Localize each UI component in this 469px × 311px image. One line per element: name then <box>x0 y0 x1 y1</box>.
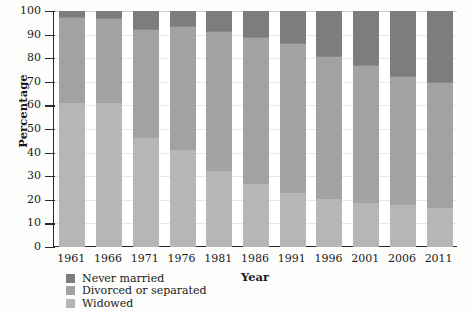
bar-1996[interactable] <box>316 11 342 246</box>
bar-segment-widowed <box>206 171 232 247</box>
y-axis-tick <box>45 82 55 83</box>
bar-segment-widowed <box>427 208 453 247</box>
bar-segment-widowed <box>133 138 159 247</box>
bar-segment-never-married <box>243 11 269 37</box>
bar-segment-divorced <box>427 82 453 208</box>
y-axis-label: 70 <box>9 76 41 87</box>
bar-segment-widowed <box>96 103 122 247</box>
bar-segment-divorced <box>353 65 379 203</box>
bar-segment-divorced <box>59 17 85 103</box>
bar-segment-widowed <box>280 193 306 247</box>
bar-segment-divorced <box>316 56 342 199</box>
bar-segment-widowed <box>390 205 416 247</box>
y-axis-label: 10 <box>9 217 41 228</box>
y-axis-tick <box>45 247 55 248</box>
bar-2001[interactable] <box>353 11 379 246</box>
bar-1961[interactable] <box>59 11 85 246</box>
legend-swatch-icon <box>66 299 75 308</box>
bar-segment-divorced <box>170 26 196 150</box>
bar-1971[interactable] <box>133 11 159 246</box>
y-axis-tick <box>45 129 55 130</box>
legend-label: Never married <box>82 272 164 285</box>
bar-segment-never-married <box>170 11 196 26</box>
y-axis-label: 90 <box>9 29 41 40</box>
y-axis-tick <box>45 58 55 59</box>
bar-1966[interactable] <box>96 11 122 246</box>
bar-segment-widowed <box>243 184 269 247</box>
y-axis-label: 20 <box>9 194 41 205</box>
y-axis-tick <box>45 200 55 201</box>
bars-layer <box>54 11 457 246</box>
bar-segment-divorced <box>133 29 159 139</box>
bar-2011[interactable] <box>427 11 453 246</box>
stacked-bar-chart: Percentage 0102030405060708090100 196119… <box>0 0 469 311</box>
bar-segment-never-married <box>353 11 379 65</box>
y-axis-label: 0 <box>9 241 41 252</box>
bar-segment-divorced <box>280 43 306 193</box>
bar-1991[interactable] <box>280 11 306 246</box>
y-axis-tick <box>45 35 55 36</box>
legend-label: Widowed <box>82 297 133 310</box>
y-axis-label: 40 <box>9 147 41 158</box>
y-axis-label: 50 <box>9 123 41 134</box>
bar-segment-divorced <box>243 37 269 185</box>
bar-segment-never-married <box>280 11 306 43</box>
legend-item[interactable]: Divorced or separated <box>66 285 207 298</box>
y-axis-tick <box>45 223 55 224</box>
bar-segment-never-married <box>59 11 85 17</box>
y-axis-label: 30 <box>9 170 41 181</box>
legend-item[interactable]: Never married <box>66 272 207 285</box>
bar-segment-never-married <box>133 11 159 29</box>
legend-item[interactable]: Widowed <box>66 297 207 310</box>
bar-segment-never-married <box>96 11 122 18</box>
y-axis-label: 60 <box>9 99 41 110</box>
bar-segment-divorced <box>390 76 416 205</box>
bar-segment-divorced <box>206 31 232 171</box>
y-axis-tick <box>45 105 55 106</box>
legend-label: Divorced or separated <box>82 284 207 297</box>
bar-segment-widowed <box>353 203 379 247</box>
bar-segment-divorced <box>96 18 122 103</box>
bar-segment-never-married <box>316 11 342 56</box>
bar-2006[interactable] <box>390 11 416 246</box>
bar-segment-never-married <box>206 11 232 31</box>
bar-1981[interactable] <box>206 11 232 246</box>
y-axis-tick <box>45 176 55 177</box>
bar-segment-widowed <box>59 103 85 247</box>
legend-swatch-icon <box>66 286 75 295</box>
bar-segment-widowed <box>170 150 196 247</box>
y-axis-label: 80 <box>9 52 41 63</box>
y-axis-label: 100 <box>9 5 41 16</box>
bar-1986[interactable] <box>243 11 269 246</box>
bar-segment-never-married <box>427 11 453 82</box>
bar-segment-never-married <box>390 11 416 76</box>
bar-1976[interactable] <box>170 11 196 246</box>
x-axis-label-2011: 2011 <box>416 252 462 265</box>
y-axis-tick <box>45 153 55 154</box>
plot-area <box>53 11 457 247</box>
chart-legend: Never marriedDivorced or separatedWidowe… <box>66 272 207 310</box>
y-axis-tick <box>45 11 55 12</box>
bar-segment-widowed <box>316 199 342 247</box>
legend-swatch-icon <box>66 274 75 283</box>
x-axis-title: Year <box>225 270 285 284</box>
